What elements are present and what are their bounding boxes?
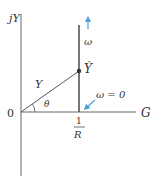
angle-arc — [32, 104, 35, 112]
omega-zero-label: ω = 0 — [96, 89, 126, 100]
vertical-axis-label: jY — [6, 12, 21, 25]
horizontal-axis-label: G — [141, 106, 151, 120]
origin-label: 0 — [7, 107, 14, 120]
omega-label: ω — [84, 36, 92, 47]
phasor-line — [21, 71, 79, 112]
admittance-locus-diagram: jY G 0 ω Ẏ Y θ ω = 0 1 R — [0, 0, 153, 183]
point-label: Ẏ — [84, 61, 93, 76]
angle-label: θ — [44, 99, 50, 109]
phasor-label: Y — [35, 78, 44, 91]
intercept-denominator: R — [73, 129, 82, 140]
phasor-point — [77, 69, 81, 73]
omega-zero-arrow-icon — [86, 100, 95, 108]
intercept-numerator: 1 — [76, 116, 82, 126]
